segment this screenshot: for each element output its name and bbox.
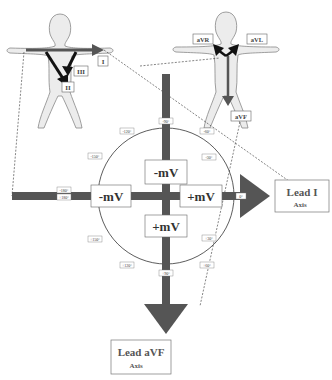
lead-i-label: I <box>102 58 105 66</box>
degree-label: +180° <box>59 195 69 200</box>
degree-label: -90° <box>163 119 170 124</box>
degree-label: -60° <box>204 129 211 134</box>
lead-i-arrowhead <box>92 44 104 56</box>
degree-label: +30° <box>205 236 213 241</box>
lead-avf-axis-box: Lead aVF Axis <box>111 340 171 374</box>
degree-label: +60° <box>203 263 211 268</box>
augmented-leads-figure: aVR aVL aVF <box>173 12 279 128</box>
quadrant-label-bottom: +mV <box>152 219 180 234</box>
avl-label: aVL <box>251 36 264 43</box>
degree-label: -120° <box>123 129 132 134</box>
lead-avf-axis-title: Lead aVF <box>118 346 165 358</box>
quadrant-label-right: +mV <box>187 189 215 204</box>
lead-iii-label: III <box>77 68 85 76</box>
lead-avf-axis-subtitle: Axis <box>129 362 143 370</box>
lead-i-axis-box: Lead I Axis <box>275 180 329 212</box>
quadrant-label-top: -mV <box>154 165 179 180</box>
degree-label: 0° <box>239 194 243 199</box>
hexaxial-ecg-diagram: I II III aVR aVL aVF <box>0 0 332 380</box>
lead-i-axis-title: Lead I <box>287 186 318 198</box>
limb-leads-figure: I II III <box>7 14 113 128</box>
degree-label: -150° <box>91 154 100 159</box>
lead-avf-axis-arrowhead <box>144 304 188 334</box>
body-silhouette-right <box>173 12 279 128</box>
degree-label: +150° <box>90 237 100 242</box>
quadrant-label-left: -mV <box>99 189 124 204</box>
avr-label: aVR <box>197 36 210 43</box>
lead-i-axis-subtitle: Axis <box>293 201 307 209</box>
body-silhouette-left <box>7 14 113 128</box>
lead-ii-label: II <box>65 84 71 92</box>
avf-label: aVF <box>235 113 247 120</box>
degree-label: -180° <box>60 188 69 193</box>
degree-label: +90° <box>162 271 170 276</box>
degree-label: +120° <box>122 263 132 268</box>
degree-label: -30° <box>206 155 213 160</box>
